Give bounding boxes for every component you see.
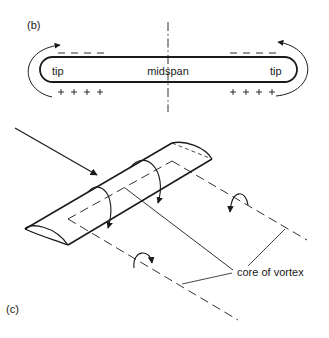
panel-b-label: (b): [27, 19, 40, 31]
leader-line-left: [182, 273, 232, 284]
left-trailing-vortex-arrow: [134, 253, 152, 268]
horseshoe-vortex: [68, 161, 307, 320]
panel-c: core of vortex (c): [6, 128, 307, 320]
freestream-arrow: [15, 128, 97, 175]
midspan-label: midspan: [147, 65, 189, 77]
right-tip-label: tip: [270, 65, 282, 77]
leader-line-right: [248, 229, 285, 266]
core-of-vortex-label: core of vortex: [237, 266, 304, 278]
panel-c-label: (c): [6, 303, 19, 315]
wing-3d: [25, 142, 212, 245]
panel-b: (b) tip midspan tip: [27, 19, 308, 112]
wing-centreline: [125, 188, 233, 270]
left-tip-label: tip: [52, 65, 64, 77]
wing-vortex-figure: (b) tip midspan tip: [0, 0, 329, 338]
lower-surface-plus-right: [230, 89, 275, 95]
lower-surface-plus-left: [58, 89, 103, 95]
